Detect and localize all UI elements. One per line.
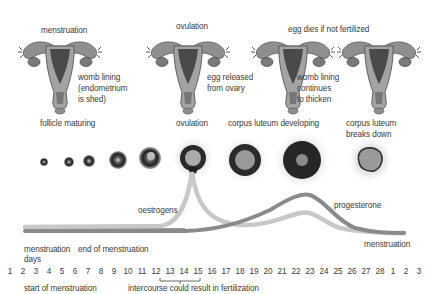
label-menstruation-right: menstruation <box>364 238 410 249</box>
day-16: 16 <box>206 265 218 276</box>
day-2: 2 <box>17 265 29 276</box>
day-next-1: 1 <box>387 265 399 276</box>
label-intercourse-fertilization: intercourse could result in fertilizatio… <box>128 282 259 293</box>
day-10: 10 <box>122 265 134 276</box>
day-27: 27 <box>360 265 372 276</box>
day-20: 20 <box>262 265 274 276</box>
label-menstruation: menstruation <box>41 24 87 35</box>
label-corpus-luteum-developing: corpus luteum developing <box>228 117 319 128</box>
day-21: 21 <box>276 265 288 276</box>
label-thicken-2: continues <box>297 82 331 93</box>
label-egg-dies: egg dies if not fertilized <box>288 23 369 34</box>
day-24: 24 <box>318 265 330 276</box>
label-ovulation-follicle: ovulation <box>176 117 208 128</box>
day-23: 23 <box>304 265 316 276</box>
label-egg-released-2: from ovary <box>207 82 245 93</box>
day-3: 3 <box>30 265 42 276</box>
day-1: 1 <box>4 265 16 276</box>
label-corpus-luteum-1: corpus luteum <box>346 117 396 128</box>
label-end-of-menstruation: end of menstruation <box>78 243 149 254</box>
label-corpus-luteum-2: breaks down <box>346 128 391 139</box>
day-5: 5 <box>56 265 68 276</box>
label-thicken-1: womb lining <box>297 71 339 82</box>
day-8: 8 <box>95 265 107 276</box>
day-11: 11 <box>136 265 148 276</box>
day-17: 17 <box>220 265 232 276</box>
day-7: 7 <box>82 265 94 276</box>
day-15: 15 <box>192 265 204 276</box>
day-9: 9 <box>108 265 120 276</box>
day-26: 26 <box>346 265 358 276</box>
day-19: 19 <box>248 265 260 276</box>
label-womb-lining-3: is shed) <box>78 93 106 104</box>
label-womb-lining-1: womb lining <box>78 71 120 82</box>
day-6: 6 <box>69 265 81 276</box>
follicle-stage-icons <box>40 130 394 190</box>
day-28: 28 <box>374 265 386 276</box>
day-22: 22 <box>290 265 302 276</box>
days-axis: 1 2 3 4 5 6 7 8 9 10 11 12 13 14 15 16 1… <box>0 265 430 277</box>
label-oestrogens: oestrogens <box>138 204 178 215</box>
day-13: 13 <box>164 265 176 276</box>
label-progesterone: progesterone <box>334 199 381 210</box>
day-4: 4 <box>43 265 55 276</box>
label-days: days <box>24 253 41 264</box>
label-start-of-menstruation: start of menstruation <box>24 282 97 293</box>
day-next-3: 3 <box>413 265 425 276</box>
label-egg-released-1: egg released <box>207 71 253 82</box>
uterus-egg-dies-icon <box>337 42 421 114</box>
day-18: 18 <box>234 265 246 276</box>
day-14: 14 <box>178 265 190 276</box>
label-womb-lining-2: (endometrium <box>78 82 127 93</box>
day-25: 25 <box>332 265 344 276</box>
day-12: 12 <box>150 265 162 276</box>
label-ovulation: ovulation <box>176 20 208 31</box>
label-thicken-3: to thicken <box>297 93 331 104</box>
day-next-2: 2 <box>400 265 412 276</box>
label-follicle-maturing: follicle maturing <box>40 117 95 128</box>
